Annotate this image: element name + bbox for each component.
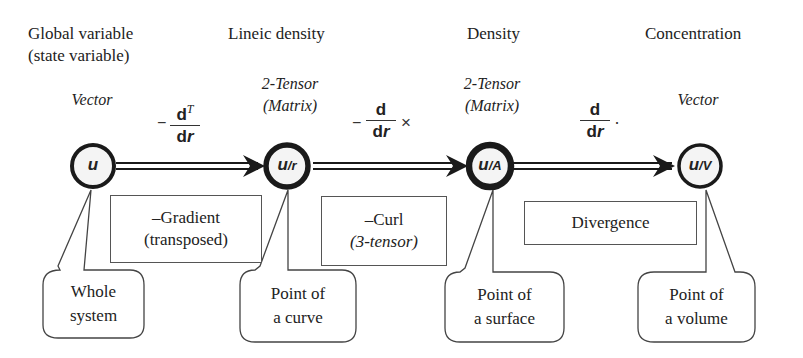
divergence-box: Divergence	[524, 201, 697, 245]
node-u-v-base: u	[689, 155, 699, 174]
callout-point-of-curve: Point of a curve	[240, 282, 356, 330]
denominator-r-2: r	[383, 122, 390, 141]
curl-box: –Curl (3-tensor)	[321, 196, 447, 266]
type-2tensor-1: 2-Tensor	[245, 74, 335, 94]
callout-point-of-surface: Point of a surface	[445, 283, 564, 331]
denominator-r-1: r	[187, 127, 194, 146]
callout-surface-line1: Point of	[445, 283, 564, 307]
arrow-divergence	[511, 163, 672, 169]
transpose-superscript: T	[187, 102, 194, 116]
fraction-bar-2	[366, 120, 396, 121]
numerator-d-1: d	[176, 105, 186, 124]
divergence-label: Divergence	[525, 212, 696, 234]
callout-whole-system: Whole system	[43, 280, 144, 328]
node-u-r-subscript: /r	[288, 158, 297, 173]
header-density: Density	[467, 24, 520, 44]
arrow-curl	[313, 163, 452, 169]
fraction-bar-3	[580, 120, 610, 121]
type-vector-2: Vector	[668, 90, 728, 110]
minus-sign-2: −	[352, 114, 361, 132]
gradient-box: –Gradient (transposed)	[110, 195, 262, 263]
node-u-a-subscript: /A	[489, 158, 502, 173]
node-u-r-base: u	[277, 155, 287, 174]
node-u-per-a: u/A	[460, 155, 520, 175]
header-state-variable: (state variable)	[28, 46, 129, 66]
callout-curve-line2: a curve	[240, 306, 356, 330]
dot-product-sign: ·	[614, 112, 620, 133]
type-2tensor-2: 2-Tensor	[447, 74, 537, 94]
denominator-r-3: r	[597, 122, 604, 141]
callout-volume-line2: a volume	[638, 307, 755, 331]
minus-sign-1: −	[157, 114, 166, 132]
type-matrix-2: (Matrix)	[447, 96, 537, 116]
header-global-variable: Global variable	[28, 24, 133, 44]
callout-whole-system-line1: Whole	[43, 280, 144, 304]
node-u-per-r: u/r	[257, 155, 317, 175]
cross-product-sign: ×	[401, 113, 411, 133]
arrow-gradient	[116, 163, 258, 169]
callout-surface-line2: a surface	[445, 307, 564, 331]
header-lineic-density: Lineic density	[228, 24, 325, 44]
type-matrix-1: (Matrix)	[245, 96, 335, 116]
node-u-a-base: u	[478, 155, 488, 174]
curl-label: –Curl	[322, 209, 446, 231]
callout-curve-line1: Point of	[240, 282, 356, 306]
fraction-bar-1	[170, 125, 200, 126]
node-u: u	[63, 155, 123, 175]
callout-point-of-volume: Point of a volume	[638, 283, 755, 331]
node-u-v-subscript: /V	[699, 158, 711, 173]
header-concentration: Concentration	[645, 24, 741, 44]
denominator-d-2: d	[372, 122, 382, 141]
numerator-d-3: d	[590, 100, 600, 119]
curl-3tensor-label: (3-tensor)	[322, 231, 446, 253]
node-u-base: u	[88, 155, 98, 174]
denominator-d-1: d	[176, 127, 186, 146]
callout-volume-line1: Point of	[638, 283, 755, 307]
type-vector-1: Vector	[62, 90, 122, 110]
gradient-label: –Gradient	[111, 207, 261, 229]
numerator-d-2: d	[376, 100, 386, 119]
callout-whole-system-line2: system	[43, 304, 144, 328]
denominator-d-3: d	[586, 122, 596, 141]
node-u-per-v: u/V	[670, 155, 730, 175]
gradient-transposed-label: (transposed)	[111, 229, 261, 251]
